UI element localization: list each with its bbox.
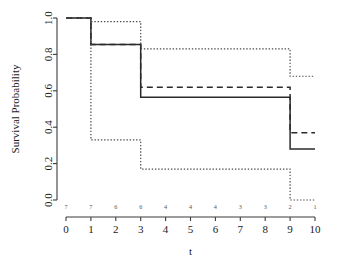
x-axis-tick-label: 7 (238, 223, 244, 235)
y-axis-tick-label: 0.0 (42, 193, 54, 207)
x-axis-tick-label: 5 (188, 223, 194, 235)
number-at-risk-label: 4 (214, 203, 217, 210)
curve-comparison-estimate (66, 18, 315, 133)
number-at-risk-label: 3 (264, 203, 267, 210)
number-at-risk-label: 7 (64, 203, 67, 210)
number-at-risk-label: 7 (89, 203, 92, 210)
y-axis-tick-label: 0.2 (42, 157, 54, 171)
x-axis-tick-label: 6 (213, 223, 219, 235)
x-axis-tick-label: 2 (113, 223, 119, 235)
number-at-risk-label: 6 (114, 203, 117, 210)
curve-upper-confidence-bound (66, 18, 315, 76)
x-axis-title: t (189, 245, 192, 257)
y-axis-tick-label: 0.6 (42, 83, 54, 97)
x-axis-tick-label: 9 (287, 223, 293, 235)
survival-plot: 0.00.20.40.60.81.0Survival Probability01… (0, 0, 338, 265)
x-axis-tick-label: 0 (63, 223, 69, 235)
number-at-risk-label: 4 (164, 203, 167, 210)
x-axis-tick-label: 3 (138, 223, 144, 235)
number-at-risk-label: 1 (313, 203, 316, 210)
number-at-risk-label: 6 (139, 203, 142, 210)
x-axis-tick-label: 1 (88, 223, 94, 235)
number-at-risk-label: 4 (189, 203, 192, 210)
y-axis-title: Survival Probability (9, 64, 21, 153)
y-axis-tick-label: 0.4 (42, 120, 54, 134)
number-at-risk-label: 3 (239, 203, 242, 210)
x-axis-tick-label: 10 (310, 223, 322, 235)
curve-survival-estimate (66, 18, 315, 149)
number-at-risk-label: 2 (289, 203, 292, 210)
x-axis-tick-label: 8 (262, 223, 268, 235)
y-axis-tick-label: 1.0 (42, 11, 54, 25)
survival-chart-canvas: 0.00.20.40.60.81.0Survival Probability01… (0, 0, 338, 265)
y-axis-tick-label: 0.8 (42, 47, 54, 61)
curve-lower-confidence-bound (66, 18, 315, 200)
x-axis-tick-label: 4 (163, 223, 169, 235)
